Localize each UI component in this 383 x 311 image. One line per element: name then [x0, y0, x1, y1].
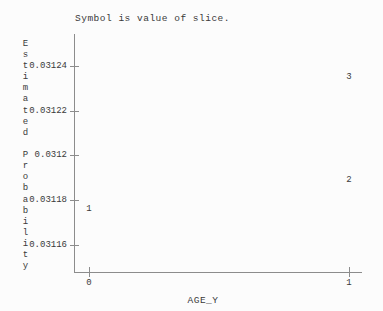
- y-axis-label-letter: [19, 139, 32, 150]
- y-tick-mark: [70, 245, 79, 246]
- y-tick-mark: [70, 111, 79, 112]
- y-tick-label: 0.0312: [0, 150, 67, 161]
- plot-title: Symbol is value of slice.: [75, 13, 230, 24]
- y-axis-label-letter: s: [19, 50, 32, 61]
- x-tick-label: 0: [79, 278, 99, 289]
- y-tick-label: 0.03124: [0, 61, 67, 72]
- y-tick-label: 0.03116: [0, 240, 67, 251]
- y-axis-label-letter: l: [19, 228, 32, 239]
- y-axis-label-letter: b: [19, 183, 32, 194]
- y-axis-label-letter: e: [19, 117, 32, 128]
- y-axis-line: [74, 34, 75, 273]
- x-tick-label: 1: [339, 278, 359, 289]
- y-tick-label: 0.03122: [0, 106, 67, 117]
- x-axis-line: [74, 272, 362, 273]
- y-axis-label-letter: m: [19, 83, 32, 94]
- y-axis-label-letter: i: [19, 217, 32, 228]
- y-axis-label-letter: r: [19, 161, 32, 172]
- point-symbol: 2: [339, 175, 359, 186]
- y-axis-label-letter: i: [19, 72, 32, 83]
- y-axis-label-letter: E: [19, 39, 32, 50]
- y-tick-mark: [70, 200, 79, 201]
- x-tick-mark: [89, 267, 90, 277]
- y-axis-label-letter: t: [19, 250, 32, 261]
- y-tick-mark: [70, 66, 79, 67]
- plot-area: Symbol is value of slice. EstimatedProba…: [0, 0, 383, 311]
- y-axis-label-letter: o: [19, 172, 32, 183]
- y-tick-mark: [70, 155, 79, 156]
- y-tick-label: 0.03118: [0, 195, 67, 206]
- y-axis-label-letter: d: [19, 128, 32, 139]
- y-axis-label-letter: a: [19, 94, 32, 105]
- y-axis-label-letter: b: [19, 206, 32, 217]
- x-axis-title: AGE_Y: [173, 295, 233, 306]
- y-axis-label-letter: y: [19, 261, 32, 272]
- point-symbol: 3: [339, 72, 359, 83]
- point-symbol: 1: [79, 204, 99, 215]
- x-tick-mark: [349, 267, 350, 277]
